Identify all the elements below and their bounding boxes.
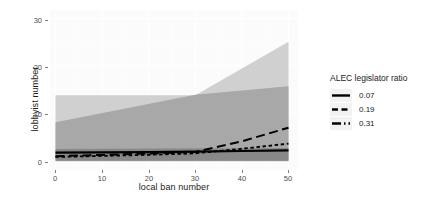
legend-item-007[interactable]: 0.07 xyxy=(330,88,445,102)
legend-item-031[interactable]: 0.31 xyxy=(330,116,445,130)
y-tick-label-30: 30 xyxy=(24,16,42,25)
legend-label-019: 0.19 xyxy=(359,105,375,114)
y-tick-label-10: 10 xyxy=(24,110,42,119)
x-tick-mark-30 xyxy=(195,170,196,173)
y-tick-mark-10 xyxy=(45,114,48,115)
legend-key-dashdot-icon xyxy=(330,117,352,130)
x-tick-mark-40 xyxy=(242,170,243,173)
x-tick-mark-20 xyxy=(149,170,150,173)
x-axis-title: local ban number xyxy=(50,182,298,192)
x-tick-mark-0 xyxy=(55,170,56,173)
plot-svg xyxy=(50,10,298,170)
y-tick-label-0: 0 xyxy=(24,158,42,167)
y-tick-mark-30 xyxy=(45,20,48,21)
y-axis-title: lobbyist number xyxy=(30,66,40,131)
chart-figure: lobbyist number 30 20 10 0 xyxy=(0,0,448,198)
legend-label-031: 0.31 xyxy=(359,119,375,128)
legend: ALEC legislator ratio 0.07 0.19 xyxy=(330,73,445,130)
y-tick-label-20: 20 xyxy=(24,63,42,72)
legend-title: ALEC legislator ratio xyxy=(330,73,445,83)
legend-label-007: 0.07 xyxy=(359,91,375,100)
legend-key-solid-icon xyxy=(330,89,352,102)
x-tick-mark-50 xyxy=(288,170,289,173)
x-tick-mark-10 xyxy=(102,170,103,173)
legend-item-019[interactable]: 0.19 xyxy=(330,102,445,116)
y-tick-mark-0 xyxy=(45,162,48,163)
plot-panel xyxy=(50,10,298,170)
legend-key-dashed-icon xyxy=(330,103,352,116)
y-tick-mark-20 xyxy=(45,67,48,68)
